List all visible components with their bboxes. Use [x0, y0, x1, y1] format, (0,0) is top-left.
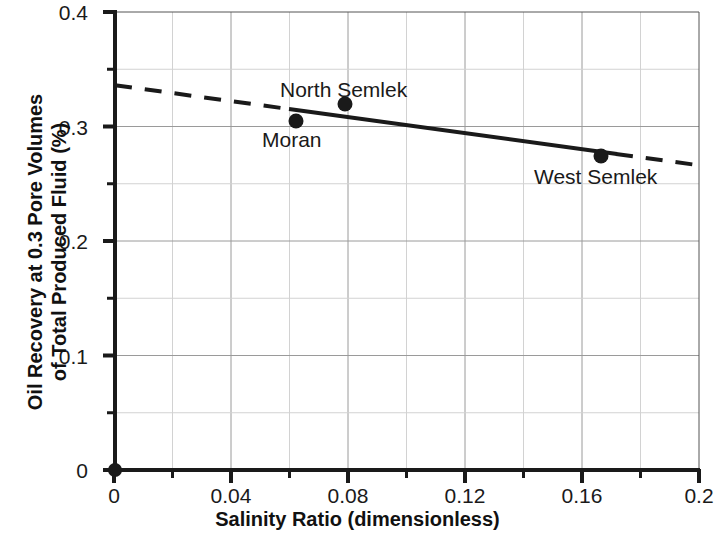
x-tick-label-0.12: 0.12 [425, 484, 505, 508]
trend-line-dashed-right [616, 154, 699, 165]
x-axis-title: Salinity Ratio (dimensionless) [0, 508, 715, 531]
x-tick-label-0.16: 0.16 [542, 484, 622, 508]
point-annotation-north-semlek: North Semlek [280, 78, 407, 102]
data-point-origin[interactable] [108, 463, 122, 477]
y-axis-title: Oil Recovery at 0.3 Pore Volumes of Tota… [23, 17, 71, 487]
data-point-moran[interactable] [289, 114, 304, 129]
chart-figure: 0.4 0.3 0.2 0.1 0 0 0.04 0.08 0.12 0.16 … [0, 0, 715, 542]
x-tick-label-0: 0 [74, 484, 154, 508]
x-tick-label-0.2: 0.2 [659, 484, 715, 508]
data-point-markers [108, 97, 609, 478]
x-tick-label-0.04: 0.04 [191, 484, 271, 508]
trend-line-solid [289, 109, 617, 154]
data-point-west-semlek[interactable] [594, 149, 609, 164]
x-tick-label-0.08: 0.08 [308, 484, 388, 508]
point-annotation-moran: Moran [262, 128, 322, 152]
point-annotation-west-semlek: West Semlek [534, 165, 657, 189]
y-axis-title-line1: Oil Recovery at 0.3 Pore Volumes [23, 17, 47, 487]
y-axis-title-line2: of Total Produced Fluid (%) [47, 17, 71, 487]
trend-line-dashed-left [115, 85, 290, 109]
